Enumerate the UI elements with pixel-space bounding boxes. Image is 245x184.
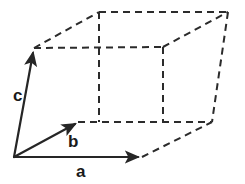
lattice-diagram <box>0 0 245 184</box>
vector-label-c: c <box>13 87 22 104</box>
vector-label-a: a <box>76 163 85 180</box>
vector-label-b: b <box>68 133 78 150</box>
edge-atip-to-ab <box>142 122 212 157</box>
edge-abc-to-ab <box>212 12 228 122</box>
edge-ctip-to-bc <box>34 12 99 48</box>
dashed-edges-group <box>34 12 228 157</box>
vector-b-arrow <box>14 124 75 157</box>
parallelepiped-figure: c b a <box>0 0 245 184</box>
edge-ac-to-abc <box>163 12 228 47</box>
vector-c-arrow <box>14 53 33 157</box>
edge-ctip-to-ac <box>34 47 163 48</box>
